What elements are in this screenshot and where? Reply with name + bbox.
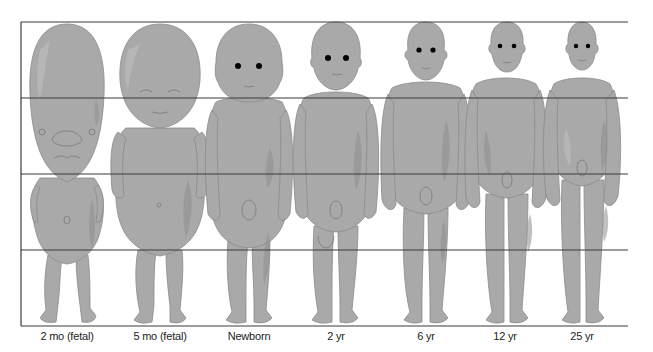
label-2yr: 2 yr	[327, 330, 345, 342]
proportions-diagram: 2 mo (fetal) 5 mo (fetal) Newborn 2 yr 6…	[0, 0, 653, 352]
label-5mo-fetal: 5 mo (fetal)	[133, 330, 186, 342]
label-25yr: 25 yr	[570, 330, 593, 342]
diagram-canvas	[0, 0, 653, 352]
figure-25yr	[543, 22, 620, 323]
figure-2mo-fetal	[30, 24, 104, 323]
label-6yr: 6 yr	[417, 330, 435, 342]
label-newborn: Newborn	[228, 330, 271, 342]
figure-12yr	[465, 22, 547, 323]
figure-2yr	[293, 22, 378, 323]
label-2mo-fetal: 2 mo (fetal)	[40, 330, 93, 342]
label-12yr: 12 yr	[493, 330, 516, 342]
figure-6yr	[381, 22, 471, 323]
